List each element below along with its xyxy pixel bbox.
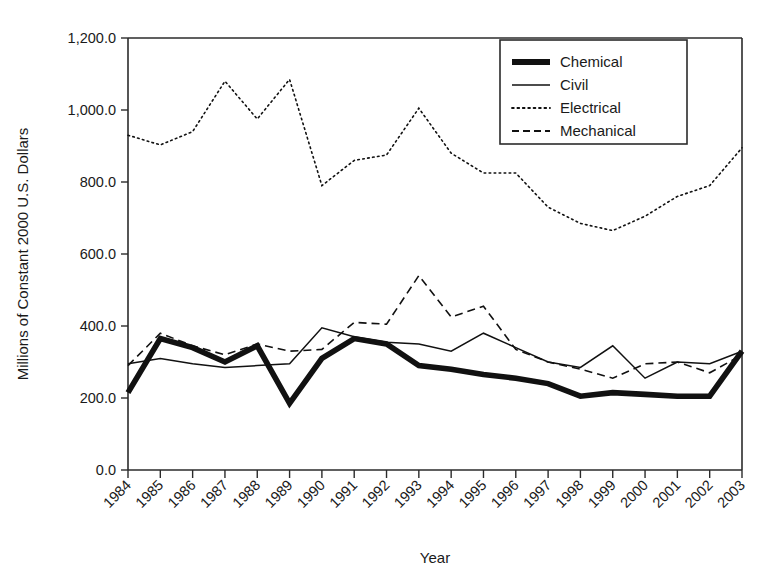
y-axis-ticks: 1,200.01,000.0800.0600.0400.0200.00.0	[68, 30, 128, 478]
x-tick-label: 1986	[165, 477, 199, 511]
x-tick-label: 2002	[682, 477, 716, 511]
legend-label-electrical[interactable]: Electrical	[560, 99, 621, 116]
x-axis-ticks: 1984198519861987198819891990199119921993…	[100, 470, 748, 511]
x-tick-label: 1985	[132, 477, 166, 511]
y-tick-label: 1,200.0	[68, 30, 116, 46]
x-axis-title: Year	[420, 549, 450, 566]
legend-label-chemical[interactable]: Chemical	[560, 53, 623, 70]
legend-label-mechanical[interactable]: Mechanical	[560, 122, 636, 139]
legend-label-civil[interactable]: Civil	[560, 76, 588, 93]
x-tick-label: 1992	[359, 477, 393, 511]
x-tick-label: 2003	[714, 477, 748, 511]
x-tick-label: 1988	[229, 477, 263, 511]
x-tick-label: 1996	[488, 477, 522, 511]
y-tick-label: 0.0	[96, 462, 116, 478]
x-tick-label: 1995	[455, 477, 489, 511]
x-tick-label: 1989	[262, 477, 296, 511]
x-tick-label: 1993	[391, 477, 425, 511]
line-chart: 1,200.01,000.0800.0600.0400.0200.00.0 19…	[0, 0, 779, 583]
y-tick-label: 400.0	[80, 318, 116, 334]
x-tick-label: 2001	[649, 477, 683, 511]
y-tick-label: 1,000.0	[68, 102, 116, 118]
y-tick-label: 600.0	[80, 246, 116, 262]
x-tick-label: 1994	[423, 477, 457, 511]
chart-figure: 1,200.01,000.0800.0600.0400.0200.00.0 19…	[0, 0, 779, 583]
x-tick-label: 1990	[294, 477, 328, 511]
y-tick-label: 200.0	[80, 390, 116, 406]
y-axis-title: Millions of Constant 2000 U.S. Dollars	[14, 128, 31, 381]
x-tick-label: 1987	[197, 477, 231, 511]
chart-legend[interactable]: ChemicalCivilElectricalMechanical	[500, 40, 687, 144]
x-tick-label: 2000	[617, 477, 651, 511]
x-tick-label: 1999	[585, 477, 619, 511]
y-tick-label: 800.0	[80, 174, 116, 190]
x-tick-label: 1997	[520, 477, 554, 511]
x-tick-label: 1998	[552, 477, 586, 511]
x-tick-label: 1984	[100, 477, 134, 511]
x-tick-label: 1991	[326, 477, 360, 511]
